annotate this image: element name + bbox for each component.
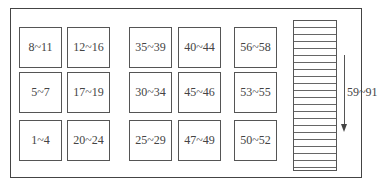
- cell-17-19: 17~19: [67, 72, 110, 113]
- stack-range-label: 59~91: [347, 85, 378, 100]
- cell-30-34: 30~34: [129, 72, 172, 113]
- cell-40-44: 40~44: [178, 27, 221, 68]
- cell-53-55: 53~55: [234, 72, 277, 113]
- cell-35-39: 35~39: [129, 27, 172, 68]
- cell-20-24: 20~24: [67, 120, 110, 161]
- striped-stack: [293, 20, 337, 171]
- cell-1-4: 1~4: [19, 120, 62, 161]
- cell-8-11: 8~11: [19, 27, 62, 68]
- cell-45-46: 45~46: [178, 72, 221, 113]
- down-arrow-line: [344, 55, 345, 127]
- cell-50-52: 50~52: [234, 120, 277, 161]
- cell-12-16: 12~16: [67, 27, 110, 68]
- cell-25-29: 25~29: [129, 120, 172, 161]
- cell-47-49: 47~49: [178, 120, 221, 161]
- down-arrow-icon: [341, 124, 347, 132]
- cell-56-58: 56~58: [234, 27, 277, 68]
- cell-5-7: 5~7: [19, 72, 62, 113]
